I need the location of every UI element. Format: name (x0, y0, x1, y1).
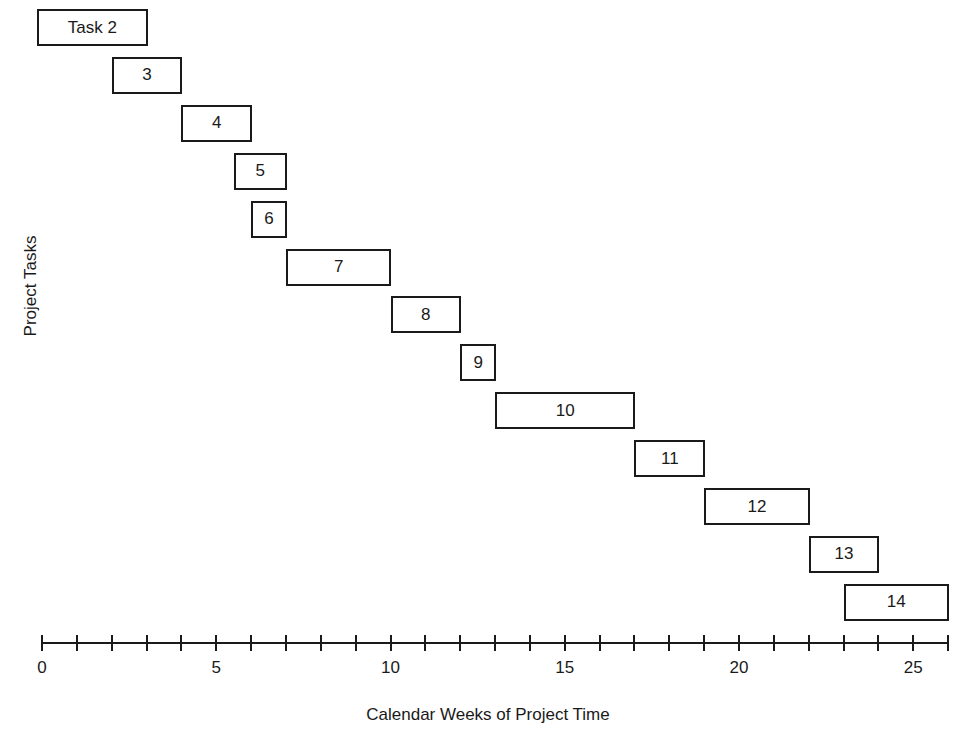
x-axis-tick (738, 635, 740, 651)
x-axis-label: Calendar Weeks of Project Time (366, 705, 609, 725)
x-axis-tick (459, 635, 461, 651)
x-axis-tick (599, 635, 601, 651)
x-tick-label: 5 (212, 658, 221, 678)
x-axis-tick (320, 635, 322, 651)
task-bar: 3 (112, 57, 183, 94)
x-axis-tick (843, 635, 845, 651)
x-axis-tick (146, 635, 148, 651)
x-axis-tick (529, 635, 531, 651)
x-axis-tick (773, 635, 775, 651)
x-tick-label: 0 (37, 658, 46, 678)
x-axis-tick (703, 635, 705, 651)
gantt-chart: Task 234567891011121314 0510152025 Calen… (0, 0, 967, 743)
task-bar: 12 (704, 488, 810, 525)
task-bar: 7 (286, 249, 392, 286)
x-tick-label: 10 (381, 658, 400, 678)
task-bar: 10 (495, 392, 635, 429)
x-axis-tick (633, 635, 635, 651)
x-tick-label: 25 (904, 658, 923, 678)
x-axis-tick (808, 635, 810, 651)
task-bar: 9 (460, 344, 496, 381)
x-axis-tick (250, 635, 252, 651)
x-tick-label: 15 (555, 658, 574, 678)
x-tick-label: 20 (730, 658, 749, 678)
task-bar: 11 (634, 440, 705, 477)
x-axis-tick (668, 635, 670, 651)
task-bar: 5 (234, 153, 287, 190)
task-bar: Task 2 (37, 9, 148, 46)
x-axis-tick (285, 635, 287, 651)
y-axis-label: Project Tasks (21, 236, 41, 337)
x-axis-tick (877, 635, 879, 651)
x-axis-tick (912, 635, 914, 651)
task-bar: 13 (809, 536, 880, 573)
x-axis-tick (564, 635, 566, 651)
x-axis-tick (494, 635, 496, 651)
x-axis-tick (947, 635, 949, 651)
x-axis-tick (424, 635, 426, 651)
x-axis-tick (390, 635, 392, 651)
x-axis-tick (180, 635, 182, 651)
task-bar: 8 (391, 296, 462, 333)
x-axis-tick (41, 635, 43, 651)
task-bar: 6 (251, 201, 287, 238)
x-axis-tick (215, 635, 217, 651)
x-axis-tick (355, 635, 357, 651)
task-bar: 14 (844, 584, 950, 621)
x-axis-tick (76, 635, 78, 651)
task-bar: 4 (181, 105, 252, 142)
x-axis-tick (111, 635, 113, 651)
